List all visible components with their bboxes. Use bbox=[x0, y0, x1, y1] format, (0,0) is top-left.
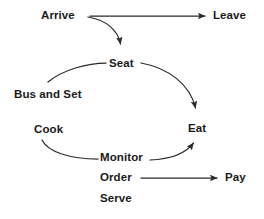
node-eat[interactable]: Eat bbox=[188, 122, 206, 135]
edge-cook-to-monitor bbox=[42, 140, 98, 159]
node-leave[interactable]: Leave bbox=[213, 9, 246, 22]
node-serve[interactable]: Serve bbox=[100, 192, 132, 205]
node-cook[interactable]: Cook bbox=[34, 123, 63, 136]
node-seat[interactable]: Seat bbox=[109, 57, 134, 70]
workflow-diagram: ArriveLeaveSeatBus and SetCookEatMonitor… bbox=[0, 0, 264, 219]
node-monitor[interactable]: Monitor bbox=[100, 151, 143, 164]
node-arrive[interactable]: Arrive bbox=[41, 9, 75, 22]
edge-seat-to-eat bbox=[141, 63, 196, 108]
node-bus_and_set[interactable]: Bus and Set bbox=[14, 88, 82, 101]
edge-monitor-to-eat bbox=[150, 143, 194, 160]
node-order[interactable]: Order bbox=[100, 171, 132, 184]
edge-arrive-to-seat bbox=[88, 17, 121, 44]
edge-seat-to-bus-and-set bbox=[48, 63, 106, 82]
edge-layer bbox=[0, 0, 264, 219]
node-pay[interactable]: Pay bbox=[225, 171, 246, 184]
